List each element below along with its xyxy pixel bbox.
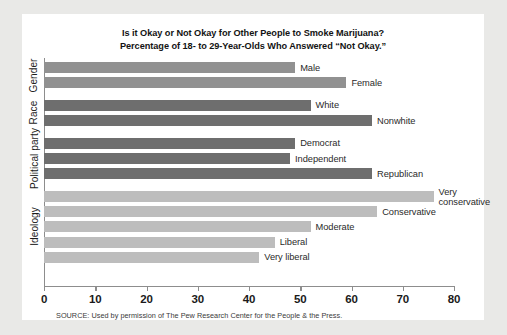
- bar: [44, 77, 346, 88]
- group-label-axis: GenderRacePolitical partyIdeology: [22, 58, 46, 286]
- x-axis-tick-label: 0: [41, 293, 47, 305]
- bar: [44, 252, 259, 263]
- bar-label: Male: [300, 63, 320, 73]
- chart-title-line-1: Is it Okay or Not Okay for Other People …: [22, 27, 484, 40]
- group-label-text: Political party: [29, 128, 40, 189]
- x-axis-tick-label: 50: [294, 293, 306, 305]
- bar: [44, 115, 372, 126]
- bar-label: Liberal: [280, 237, 308, 247]
- bar-label: Female: [351, 78, 382, 88]
- x-axis-tick: [403, 286, 404, 291]
- bar: [44, 168, 372, 179]
- x-axis-tick: [454, 286, 455, 291]
- bar: [44, 138, 295, 149]
- group-label: Political party: [22, 138, 46, 179]
- chart-page: Is it Okay or Not Okay for Other People …: [0, 0, 507, 335]
- bar-label: Independent: [295, 154, 346, 164]
- x-axis-tick-label: 20: [140, 293, 152, 305]
- bar: [44, 221, 311, 232]
- bar-label: Nonwhite: [377, 116, 415, 126]
- bar: [44, 237, 275, 248]
- x-axis-tick: [147, 286, 148, 291]
- bar-label: Republican: [377, 169, 423, 179]
- bar: [44, 62, 295, 73]
- bar-label: Democrat: [300, 138, 340, 148]
- x-axis-tick: [300, 286, 301, 291]
- x-axis-tick: [249, 286, 250, 291]
- bar-label: Very conservative: [439, 187, 491, 208]
- chart-title: Is it Okay or Not Okay for Other People …: [22, 27, 484, 52]
- chart-title-line-2: Percentage of 18- to 29-Year-Olds Who An…: [22, 40, 484, 53]
- x-axis-tick-label: 40: [243, 293, 255, 305]
- bar-label: White: [316, 100, 340, 110]
- group-label-text: Ideology: [29, 207, 40, 246]
- x-axis-tick-label: 30: [192, 293, 204, 305]
- plot-area: GenderRacePolitical partyIdeology MaleFe…: [22, 58, 484, 320]
- x-axis-tick-label: 10: [89, 293, 101, 305]
- group-label: Gender: [22, 62, 46, 88]
- group-label: Ideology: [22, 191, 46, 263]
- bar-label: Very liberal: [264, 252, 309, 262]
- x-axis-tick-label: 60: [345, 293, 357, 305]
- x-axis-tick: [95, 286, 96, 291]
- group-label: Race: [22, 100, 46, 126]
- group-label-text: Gender: [29, 58, 40, 92]
- bar: [44, 153, 290, 164]
- x-axis-tick: [198, 286, 199, 291]
- x-axis-tick: [44, 286, 45, 291]
- bar-label: Moderate: [316, 222, 355, 232]
- bar: [44, 191, 434, 202]
- x-axis-tick-label: 80: [448, 293, 460, 305]
- source-note: SOURCE: Used by permission of The Pew Re…: [56, 311, 342, 320]
- x-axis-tick: [352, 286, 353, 291]
- x-axis-tick-label: 70: [397, 293, 409, 305]
- bar: [44, 100, 311, 111]
- bar: [44, 206, 377, 217]
- bar-label: Conservative: [382, 207, 436, 217]
- chart-card: Is it Okay or Not Okay for Other People …: [22, 14, 484, 320]
- group-label-text: Race: [29, 101, 40, 125]
